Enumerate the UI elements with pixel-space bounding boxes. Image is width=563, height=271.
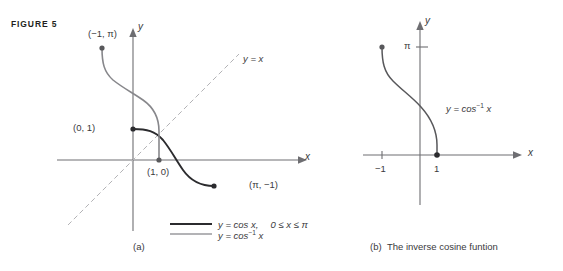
curve-arccosine-b	[382, 47, 437, 155]
panel-b-xtick-label-neg1: −1	[375, 164, 386, 174]
panel-b-caption-text: The inverse cosine funtion	[387, 241, 498, 252]
panel-b-curve-label-exponent: −1	[476, 102, 484, 109]
panel-b-curve-label-prefix: y = cos	[446, 103, 476, 114]
panel-b-point-dot-neg1-pi	[379, 44, 384, 49]
panel-b-point-dot-1-0	[434, 152, 440, 158]
panel-b-xtick-label-one: 1	[434, 164, 439, 174]
panel-b-y-axis	[416, 21, 423, 205]
panel-b-plot	[0, 0, 563, 271]
panel-b-caption: (b) The inverse cosine funtion	[370, 242, 498, 252]
panel-b-curve-label-suffix: x	[484, 103, 491, 114]
figure-container: FIGURE 5 x y (−1, π) (0, 1) (1, 0) (π, −…	[0, 0, 563, 271]
panel-b-curve-label: y = cos−1 x	[446, 103, 491, 114]
panel-b-x-axis-label: x	[528, 148, 533, 158]
panel-b-caption-index: (b)	[370, 241, 382, 252]
panel-b-x-axis	[363, 151, 522, 158]
panel-b-y-axis-label: y	[425, 16, 430, 26]
panel-b-ytick-label-pi: π	[404, 41, 411, 51]
